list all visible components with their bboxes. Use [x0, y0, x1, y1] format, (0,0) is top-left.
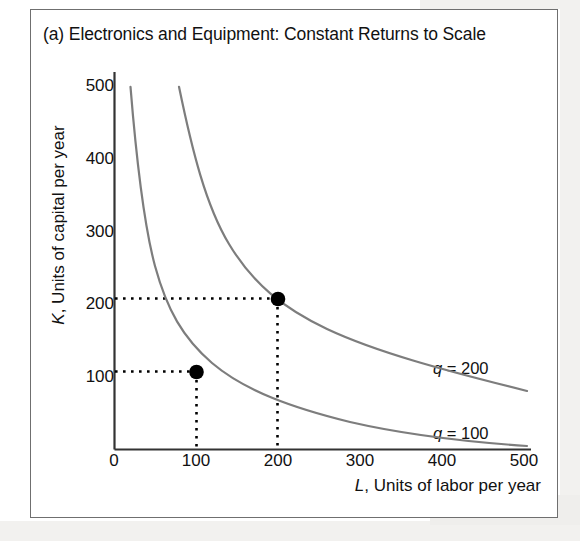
isoquant-plot — [31, 10, 559, 519]
axis-lines — [115, 72, 532, 450]
scan-artifact-right — [560, 0, 580, 541]
data-point-q200 — [271, 292, 286, 307]
isoquant-curve-q200 — [179, 87, 527, 391]
figure-panel: (a) Electronics and Equipment: Constant … — [30, 9, 558, 518]
data-point-q100 — [189, 365, 204, 380]
plot-svg — [31, 10, 559, 519]
scan-artifact-top — [420, 0, 580, 9]
